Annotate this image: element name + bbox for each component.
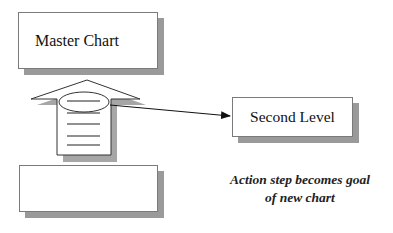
caption: Action step becomes goal of new chart	[200, 171, 393, 207]
up-arrow-document-icon	[31, 80, 140, 155]
caption-line-1: Action step becomes goal	[200, 171, 393, 189]
caption-line-2: of new chart	[200, 189, 393, 207]
action-step-ellipse	[59, 92, 109, 112]
connector-arrow	[110, 105, 230, 116]
